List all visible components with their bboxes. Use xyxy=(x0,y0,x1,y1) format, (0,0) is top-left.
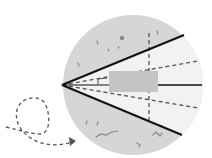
arrowhead-icon xyxy=(69,137,76,146)
sensor-cone-diagram xyxy=(0,0,212,158)
trajectory-path xyxy=(6,98,72,145)
diagram-canvas xyxy=(0,0,212,158)
target-box xyxy=(109,71,158,92)
